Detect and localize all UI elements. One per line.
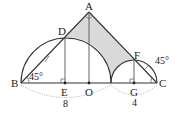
point-o-dot bbox=[88, 82, 91, 85]
angle-arc-c bbox=[151, 78, 152, 83]
label-a: A bbox=[85, 0, 93, 12]
diagram-canvas: A B C D E O F G 45° 45° 8 4 bbox=[0, 0, 175, 114]
label-f: F bbox=[134, 49, 140, 61]
label-o: O bbox=[85, 86, 93, 98]
point-g-dot bbox=[133, 82, 136, 85]
label-e: E bbox=[61, 86, 68, 98]
label-d: D bbox=[58, 25, 66, 37]
tick-fc bbox=[144, 66, 148, 70]
length-label-4: 4 bbox=[132, 97, 137, 108]
length-label-8: 8 bbox=[63, 98, 68, 109]
angle-label-c: 45° bbox=[155, 55, 169, 66]
angle-label-b: 45° bbox=[29, 71, 43, 82]
label-c: C bbox=[159, 77, 166, 89]
geometry-diagram: A B C D E O F G 45° 45° 8 4 bbox=[0, 0, 175, 114]
label-b: B bbox=[11, 77, 18, 89]
point-e-dot bbox=[64, 82, 67, 85]
